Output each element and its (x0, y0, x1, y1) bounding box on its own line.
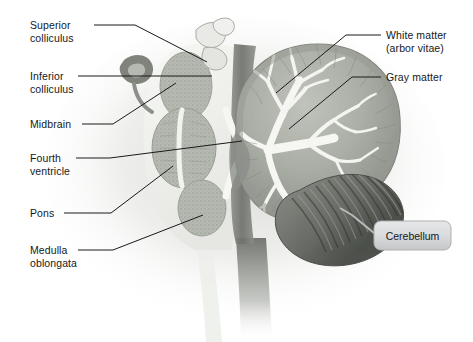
label-superior-colliculus-line-1: Superior (30, 19, 74, 32)
label-white-matter: White matter(arbor vitae) (386, 29, 447, 54)
spinal-cord (236, 238, 272, 342)
label-white-matter-line-1: White matter (386, 29, 447, 42)
label-superior-colliculus: Superiorcolliculus (30, 19, 74, 44)
label-inferior-colliculus-line-1: Inferior (30, 70, 74, 83)
label-gray-matter-line-1: Gray matter (386, 71, 443, 84)
label-medulla-oblongata-line-2: oblongata (30, 257, 77, 270)
label-medulla-oblongata: Medullaoblongata (30, 244, 77, 269)
label-midbrain: Midbrain (30, 118, 71, 131)
label-pons: Pons (30, 207, 54, 220)
label-pons-line-1: Pons (30, 207, 54, 220)
callout-label-cerebellum[interactable]: Cerebellum (374, 230, 451, 242)
label-inferior-colliculus-line-2: colliculus (30, 83, 74, 96)
label-white-matter-line-2: (arbor vitae) (386, 42, 447, 55)
label-medulla-oblongata-line-1: Medulla (30, 244, 77, 257)
label-fourth-ventricle: Fourthventricle (30, 152, 70, 177)
label-gray-matter: Gray matter (386, 71, 443, 84)
figure-canvas: SuperiorcolliculusInferiorcolliculusMidb… (0, 0, 473, 342)
label-superior-colliculus-line-2: colliculus (30, 32, 74, 45)
label-fourth-ventricle-line-1: Fourth (30, 152, 70, 165)
label-inferior-colliculus: Inferiorcolliculus (30, 70, 74, 95)
label-fourth-ventricle-line-2: ventricle (30, 165, 70, 178)
label-midbrain-line-1: Midbrain (30, 118, 71, 131)
